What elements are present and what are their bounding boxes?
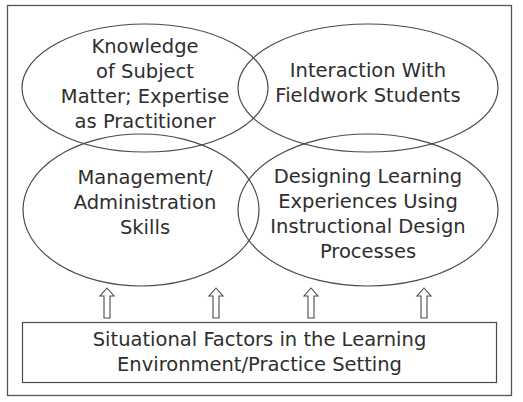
knowledge-label: Knowledge of Subject Matter; Expertise a… [45,34,245,134]
knowledge-line-4: as Practitioner [45,109,245,134]
situational-factors-label: Situational Factors in the Learning Envi… [22,327,497,377]
designing-line-4: Processes [260,239,476,264]
interaction-line-1: Interaction With [265,58,471,83]
up-arrow-icon [417,288,431,318]
knowledge-line-2: of Subject [45,59,245,84]
designing-label: Designing Learning Experiences Using Ins… [260,164,476,264]
up-arrow-icon [209,288,223,318]
interaction-line-2: Fieldwork Students [265,83,471,108]
situational-line-1: Situational Factors in the Learning [22,327,497,352]
designing-line-2: Experiences Using [260,189,476,214]
interaction-label: Interaction With Fieldwork Students [265,58,471,108]
knowledge-line-3: Matter; Expertise [45,84,245,109]
designing-line-1: Designing Learning [260,164,476,189]
diagram: Knowledge of Subject Matter; Expertise a… [0,0,523,402]
designing-line-3: Instructional Design [260,214,476,239]
situational-line-2: Environment/Practice Setting [22,352,497,377]
management-label: Management/ Administration Skills [50,165,240,240]
management-line-1: Management/ [50,165,240,190]
management-line-3: Skills [50,215,240,240]
management-line-2: Administration [50,190,240,215]
up-arrow-icon [304,288,318,318]
knowledge-line-1: Knowledge [45,34,245,59]
up-arrow-icon [100,288,114,318]
